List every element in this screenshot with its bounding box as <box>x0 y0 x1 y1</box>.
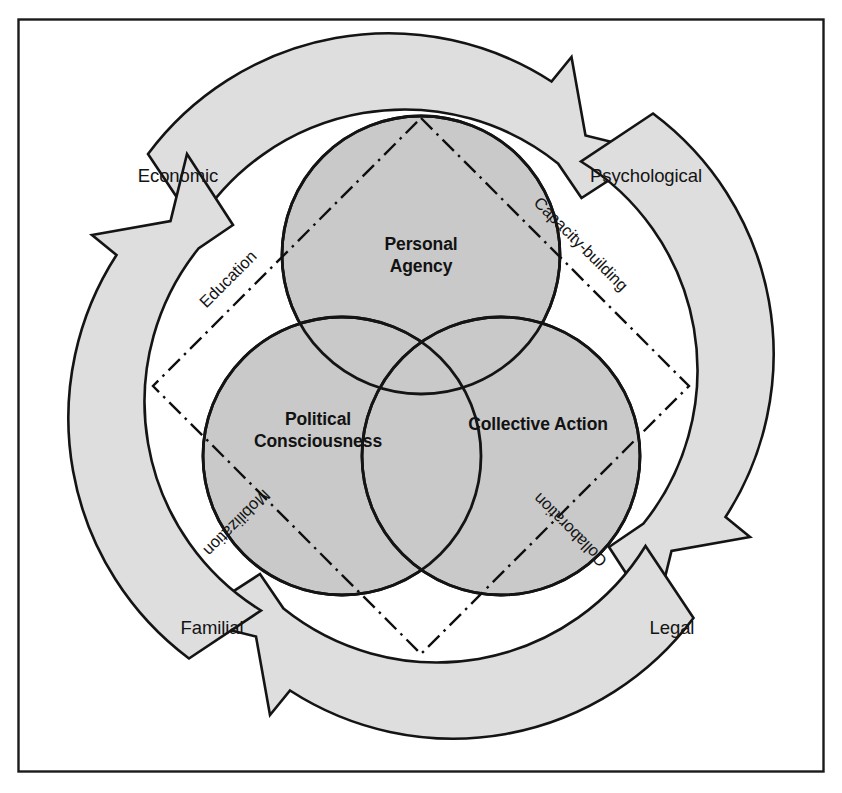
outer-label-familial: Familial <box>181 617 244 638</box>
venn-label-political-consciousness-line2: Consciousness <box>254 431 382 451</box>
venn-label-personal-agency-line1: Personal <box>384 234 457 254</box>
venn-label-collective-action: Collective Action <box>468 414 608 434</box>
outer-label-economic: Economic <box>138 165 218 186</box>
figure-root: Personal Agency Political Consciousness … <box>0 0 842 793</box>
venn-label-political-consciousness-line1: Political <box>285 409 351 429</box>
venn-label-personal-agency-line2: Agency <box>390 256 453 276</box>
outer-label-legal: Legal <box>650 617 695 638</box>
empowerment-cycle-diagram: Personal Agency Political Consciousness … <box>0 0 842 793</box>
outer-label-psychological: Psychological <box>590 165 702 186</box>
